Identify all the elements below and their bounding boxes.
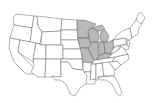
- state-north-dakota: [61, 19, 77, 30]
- us-map-svg: [0, 0, 154, 103]
- state-arkansas: [83, 62, 92, 72]
- state-iowa: [78, 38, 91, 48]
- state-new-york: [113, 28, 132, 40]
- state-kansas: [63, 49, 82, 59]
- state-new-mexico: [45, 59, 61, 77]
- state-florida: [98, 76, 122, 96]
- state-wyoming: [41, 31, 61, 45]
- state-nebraska: [61, 40, 81, 49]
- state-arizona: [31, 59, 46, 77]
- state-colorado: [46, 45, 63, 59]
- state-mississippi: [90, 64, 96, 80]
- state-south-dakota: [61, 30, 78, 40]
- state-montana: [37, 16, 62, 32]
- us-map: United States map with highlighted Midwe…: [0, 0, 154, 103]
